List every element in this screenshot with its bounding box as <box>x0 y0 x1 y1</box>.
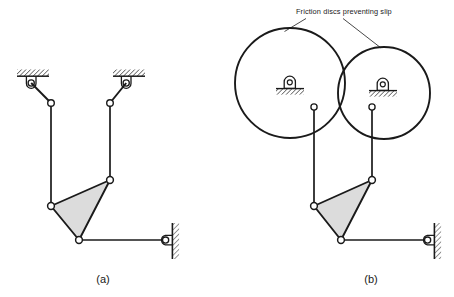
mechanism-diagram-svg: (a) Friction discs preventing slip <box>0 0 454 297</box>
wall-hatch-fill <box>435 223 442 259</box>
joint-left-crank-end <box>48 100 55 107</box>
bearing-pin-icon <box>380 82 385 87</box>
panel-b-joint-coupler-bottom <box>338 237 345 244</box>
ground-hatch-fill <box>113 70 145 77</box>
ground-hatch-fill <box>276 89 304 95</box>
ground-hatch-fill <box>369 91 397 97</box>
panel-b-joint-coupler-left <box>311 203 318 210</box>
friction-disc-annotation-label: Friction discs preventing slip <box>296 7 392 16</box>
joint-coupler-left <box>48 203 55 210</box>
joint-right-disc-pin <box>369 104 375 110</box>
joint-left-disc-pin <box>311 104 317 110</box>
panel-b-joint-coupler-top <box>369 177 376 184</box>
wall-hatch-fill <box>173 223 180 259</box>
mechanism-figure: (a) Friction discs preventing slip <box>0 0 454 297</box>
panel-b-caption: (b) <box>364 273 377 285</box>
joint-coupler-bottom <box>76 237 83 244</box>
figure-background <box>0 0 454 297</box>
bearing-pin-icon <box>287 80 292 85</box>
ground-hatch-fill <box>17 70 49 77</box>
joint-coupler-top <box>107 177 114 184</box>
pivot-pin-icon <box>163 237 169 243</box>
joint-right-crank-end <box>107 100 114 107</box>
panel-a-caption: (a) <box>96 273 109 285</box>
pivot-pin-icon <box>425 237 431 243</box>
